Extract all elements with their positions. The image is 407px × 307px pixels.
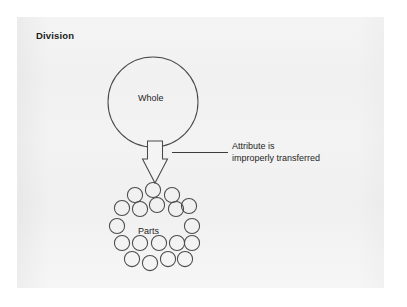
part-circle bbox=[160, 251, 175, 266]
part-circle bbox=[177, 251, 192, 266]
part-circle bbox=[181, 198, 196, 213]
part-circle bbox=[114, 200, 129, 215]
figure-page: Division bbox=[0, 0, 407, 307]
part-circle bbox=[184, 235, 199, 250]
part-circle bbox=[132, 201, 147, 216]
part-circle bbox=[132, 235, 147, 250]
part-circle bbox=[145, 182, 160, 197]
part-circle bbox=[114, 235, 129, 250]
part-circle bbox=[169, 235, 184, 250]
part-circle bbox=[184, 218, 199, 233]
part-circle bbox=[127, 187, 142, 202]
transfer-arrow-icon bbox=[143, 141, 168, 183]
diagram-canvas bbox=[0, 0, 407, 307]
parts-label: Parts bbox=[138, 226, 159, 236]
part-circle bbox=[124, 251, 139, 266]
whole-label: Whole bbox=[138, 93, 164, 103]
annotation-line-2: improperly transferred bbox=[232, 152, 320, 164]
part-circle bbox=[109, 218, 124, 233]
annotation-text: Attribute is improperly transferred bbox=[232, 140, 320, 164]
annotation-line-1: Attribute is bbox=[232, 140, 320, 152]
part-circle bbox=[151, 235, 166, 250]
part-circle bbox=[142, 255, 157, 270]
part-circle bbox=[164, 187, 179, 202]
part-circle bbox=[149, 197, 164, 212]
